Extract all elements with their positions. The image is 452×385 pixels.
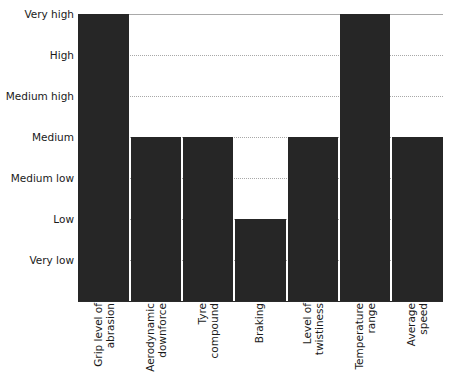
x-axis-line [78,301,443,302]
bar [131,137,181,301]
x-axis-tick-label-text: Braking [255,303,267,343]
x-axis-tick-label-text: Grip level ofabrasion [93,303,116,367]
y-axis-tick-label: Very high [0,9,74,20]
x-axis-tick-label: Braking [234,303,286,385]
y-axis-tick-label: Medium high [0,91,74,102]
x-axis-tick-label-text: Level oftwistiness [301,303,324,355]
bar [392,137,443,301]
y-axis-tick-label: High [0,50,74,61]
x-axis-tick-label-text: Tyrecompound [197,303,220,359]
x-axis-tick-label-text: Temperaturerange [353,303,376,370]
x-axis-tick-label: Temperaturerange [339,303,391,385]
bar [78,14,129,301]
x-axis-tick-label-text: Averagespeed [405,303,428,346]
plot-area [78,14,443,301]
bar [288,137,338,301]
y-axis: Very highHighMedium highMediumMedium low… [0,0,74,385]
y-axis-tick-label: Medium [0,132,74,143]
bar-chart: Very highHighMedium highMediumMedium low… [0,0,452,385]
bar [340,14,390,301]
x-axis-tick-label: Tyrecompound [182,303,234,385]
x-axis-tick-label: Aerodynamicdownforce [130,303,182,385]
x-axis: Grip level ofabrasionAerodynamicdownforc… [78,303,443,385]
x-axis-tick-label: Level oftwistiness [287,303,339,385]
y-axis-tick-label: Very low [0,255,74,266]
x-axis-tick-label: Averagespeed [391,303,443,385]
x-axis-tick-label: Grip level ofabrasion [78,303,130,385]
bars-layer [78,14,443,301]
y-axis-tick-label: Low [0,214,74,225]
y-axis-tick-label: Medium low [0,173,74,184]
bar [183,137,233,301]
x-axis-tick-label-text: Aerodynamicdownforce [145,303,168,372]
bar [235,219,285,301]
